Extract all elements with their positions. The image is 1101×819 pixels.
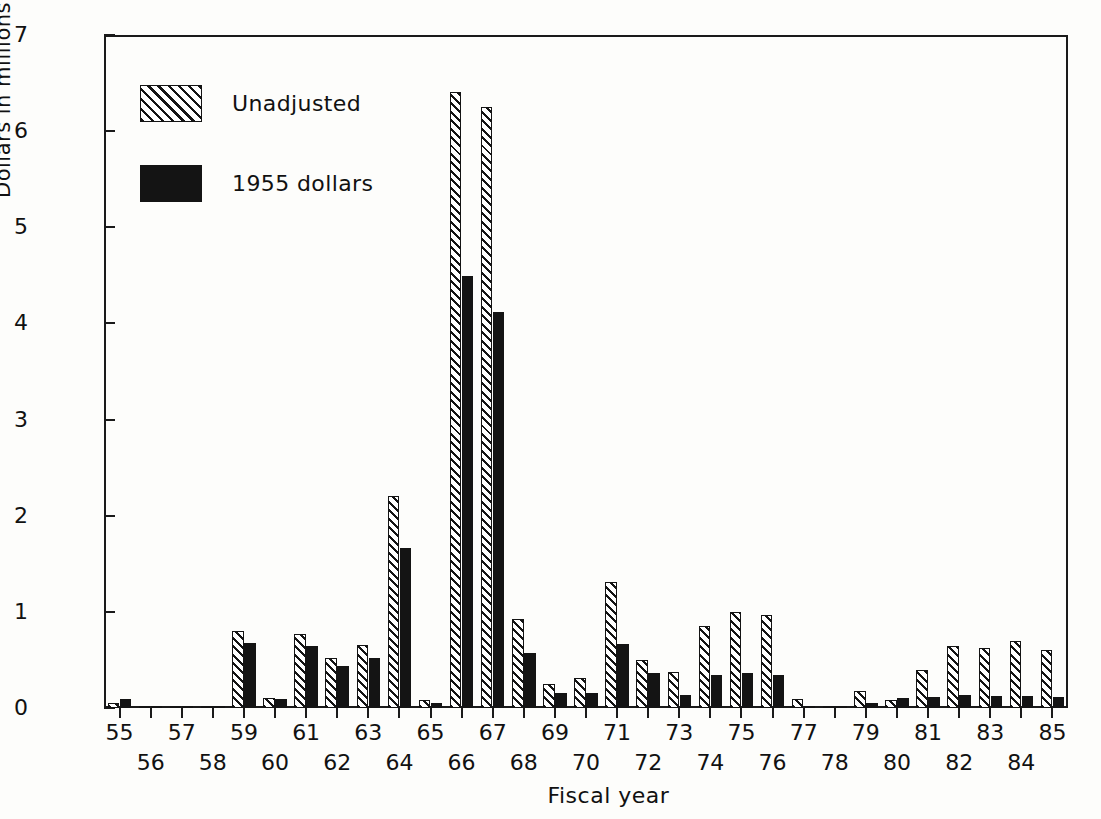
bar-group [357,35,381,708]
bar-unadjusted [574,678,586,708]
bar-unadjusted [885,700,897,708]
bar-group [916,35,940,708]
x-tick-mark [336,708,338,718]
x-tick-mark [523,708,525,718]
bar-unadjusted [543,684,555,708]
bar-unadjusted [854,691,866,708]
bar-group [979,35,1003,708]
solid-black-swatch [140,165,202,202]
y-axis-title: Dollars in millions [0,0,15,250]
bar-group [512,35,536,708]
bar-unadjusted [294,634,306,708]
hatched-swatch [140,85,202,122]
bar-group [792,35,816,708]
x-tick-mark [834,708,836,718]
bar-unadjusted [419,700,431,708]
bar-1955-dollars [400,548,412,708]
bar-group [263,35,287,708]
bar-group [419,35,443,708]
bar-1955-dollars [306,646,318,708]
x-tick-mark [430,708,432,718]
bar-group [1010,35,1034,708]
x-tick-mark [865,708,867,718]
x-tick-label: 67 [463,722,523,744]
bar-group [232,35,256,708]
bar-unadjusted [823,706,835,709]
bar-unadjusted [139,706,151,708]
bar-unadjusted [388,496,400,708]
x-tick-mark [647,708,649,718]
x-tick-mark [554,708,556,718]
x-tick-label: 66 [432,752,492,774]
y-tick-label: 0 [0,697,28,719]
bar-group [450,35,474,708]
x-tick-label: 72 [618,752,678,774]
bar-1955-dollars [742,673,754,708]
bar-group [699,35,723,708]
bar-1955-dollars [1022,696,1034,708]
bar-group [668,35,692,708]
bar-unadjusted [232,631,244,708]
x-tick-mark [367,708,369,718]
bar-unadjusted [1041,650,1053,708]
x-tick-label: 82 [929,752,989,774]
bar-group [636,35,660,708]
x-tick-mark [212,708,214,718]
bar-1955-dollars [991,696,1003,708]
bar-group [170,35,194,708]
bar-group [139,35,163,708]
bar-1955-dollars [462,276,474,708]
x-tick-label: 76 [743,752,803,774]
bar-unadjusted [605,582,617,708]
x-tick-label: 73 [649,722,709,744]
bar-1955-dollars [1053,697,1065,708]
bar-group [543,35,567,708]
bar-1955-dollars [524,653,536,708]
x-tick-mark [678,708,680,718]
bar-unadjusted [947,646,959,708]
chart-figure: 01234567 Dollars in millions 55565758596… [0,0,1101,819]
x-tick-mark [896,708,898,718]
bar-1955-dollars [431,703,443,708]
y-tick-label: 1 [0,601,28,623]
legend-label: Unadjusted [232,85,361,122]
bar-1955-dollars [275,699,287,708]
x-tick-label: 84 [991,752,1051,774]
x-tick-label: 80 [867,752,927,774]
x-tick-label: 81 [898,722,958,744]
x-tick-mark [709,708,711,718]
x-tick-mark [958,708,960,718]
y-tick-label: 2 [0,505,28,527]
bar-1955-dollars [680,695,692,708]
bar-1955-dollars [369,658,381,708]
x-tick-mark [398,708,400,718]
bar-unadjusted [263,698,275,708]
x-tick-mark [305,708,307,718]
x-tick-label: 70 [556,752,616,774]
x-tick-label: 69 [525,722,585,744]
x-tick-mark [119,708,121,718]
x-tick-label: 75 [711,722,771,744]
x-tick-mark [181,708,183,718]
bar-unadjusted [916,670,928,708]
bar-group [108,35,132,708]
bar-group [947,35,971,708]
bar-unadjusted [761,615,773,708]
x-tick-mark [1020,708,1022,718]
bar-1955-dollars [617,644,629,708]
x-tick-label: 59 [214,722,274,744]
x-tick-label: 58 [183,752,243,774]
x-tick-mark [585,708,587,718]
x-tick-label: 77 [774,722,834,744]
bar-1955-dollars [555,693,567,708]
bar-unadjusted [450,92,462,708]
bar-series-container [104,35,1068,708]
x-tick-label: 85 [1022,722,1082,744]
x-tick-label: 79 [836,722,896,744]
x-tick-mark [772,708,774,718]
x-tick-mark [927,708,929,718]
bar-1955-dollars [773,675,785,708]
x-tick-mark [274,708,276,718]
x-tick-mark [1051,708,1053,718]
y-tick-label: 3 [0,409,28,431]
